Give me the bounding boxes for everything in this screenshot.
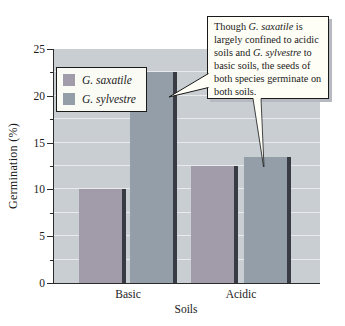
legend: G. saxatileG. sylvestre	[56, 67, 147, 112]
y-tick-major	[47, 143, 53, 144]
y-tick-minor	[50, 166, 53, 167]
x-axis-title: Soils	[156, 303, 216, 315]
y-tick-label: 20	[19, 89, 45, 103]
gridline	[54, 118, 320, 119]
y-tick-minor	[50, 119, 53, 120]
legend-item: G. saxatile	[63, 72, 146, 87]
annotation-text-segment: Though	[214, 21, 249, 32]
bar-acidic-g-sylvestre	[244, 157, 291, 283]
y-tick-label: 5	[19, 229, 45, 243]
x-tick-label: Acidic	[211, 288, 271, 300]
legend-swatch-icon	[63, 74, 75, 86]
y-tick-label: 15	[19, 136, 45, 150]
y-tick-label: 10	[19, 182, 45, 196]
legend-label: G. saxatile	[82, 74, 132, 86]
bar-acidic-g-saxatile	[191, 166, 238, 283]
annotation-text-segment: G. sylvestre	[253, 47, 301, 58]
y-tick-minor	[50, 260, 53, 261]
gridline	[54, 142, 320, 143]
x-tick-label: Basic	[98, 288, 158, 300]
legend-label: G. sylvestre	[82, 93, 136, 105]
y-axis-label: Germination (%)	[6, 123, 21, 209]
legend-swatch-icon	[63, 93, 75, 105]
y-tick-major	[47, 236, 53, 237]
bar-basic-g-saxatile	[79, 189, 126, 283]
y-tick-label: 0	[19, 276, 45, 290]
y-tick-major	[47, 189, 53, 190]
y-tick-major	[47, 283, 53, 284]
annotation-callout: Though G. saxatile is largely confined t…	[207, 16, 329, 99]
y-tick-major	[47, 96, 53, 97]
y-tick-label: 25	[19, 42, 45, 56]
y-tick-minor	[50, 213, 53, 214]
legend-item: G. sylvestre	[63, 91, 146, 106]
y-tick-major	[47, 49, 53, 50]
annotation-text-segment: G. saxatile	[249, 21, 294, 32]
y-tick-minor	[50, 72, 53, 73]
figure: 0510152025BasicAcidic Germination (%) So…	[0, 0, 345, 326]
